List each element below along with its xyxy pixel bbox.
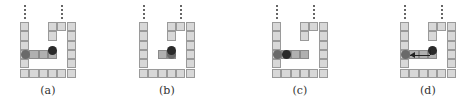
grid-cell (186, 50, 195, 59)
gray-token (401, 50, 410, 59)
grid-cell (300, 69, 309, 78)
grid-cell (48, 22, 57, 31)
continuation-dots (404, 5, 407, 21)
gray-token (21, 50, 30, 59)
grid-cell (300, 50, 309, 59)
grid-cell (158, 69, 167, 78)
grid-cell (186, 41, 195, 50)
grid-cell (167, 31, 176, 40)
grid-cell (158, 50, 167, 59)
panel-a: (a) (15, 0, 125, 106)
grid-cell (167, 22, 176, 31)
grid-cell (272, 59, 281, 68)
grid-cell (67, 22, 76, 31)
grid-cell (309, 22, 318, 31)
grid-cell (48, 69, 57, 78)
grid-cell (428, 69, 437, 78)
grid-cell (48, 31, 57, 40)
grid-cell (400, 31, 409, 40)
grid-cell (20, 31, 29, 40)
continuation-dots (313, 5, 316, 21)
grid-cell (39, 69, 48, 78)
grid-cell (20, 22, 29, 31)
move-arrow-segment (430, 50, 431, 55)
grid-cell (67, 31, 76, 40)
continuation-dots (276, 5, 279, 21)
grid-cell (186, 69, 195, 78)
grid-cell (409, 69, 418, 78)
panel-label: (c) (280, 84, 320, 97)
panel-label: (a) (28, 84, 68, 97)
grid-cell (319, 22, 328, 31)
grid-cell (428, 31, 437, 40)
grid-cell (67, 50, 76, 59)
grid-cell (139, 69, 148, 78)
grid-cell (139, 41, 148, 50)
grid-cell (139, 31, 148, 40)
grid-cell (176, 22, 185, 31)
grid-cell (186, 22, 195, 31)
grid-cell (20, 59, 29, 68)
continuation-dots (24, 5, 27, 21)
grid-cell (309, 69, 318, 78)
continuation-dots (143, 5, 146, 21)
grid-cell (139, 50, 148, 59)
panel-label: (b) (147, 84, 187, 97)
grid-cell (176, 69, 185, 78)
grid-cell (20, 41, 29, 50)
grid-cell (319, 59, 328, 68)
grid-cell (319, 41, 328, 50)
grid-cell (291, 69, 300, 78)
continuation-dots (61, 5, 64, 21)
grid-cell (447, 22, 456, 31)
grid-cell (167, 69, 176, 78)
gray-token (273, 50, 282, 59)
arrow-head-icon (410, 52, 415, 58)
grid-cell (400, 69, 409, 78)
panel-d: (d) (395, 0, 475, 106)
grid-cell (428, 22, 437, 31)
grid-cell (319, 69, 328, 78)
grid-cell (29, 50, 38, 59)
grid-cell (319, 31, 328, 40)
panel-label: (d) (408, 84, 448, 97)
grid-cell (186, 31, 195, 40)
grid-cell (186, 59, 195, 68)
grid-cell (139, 59, 148, 68)
grid-cell (447, 50, 456, 59)
continuation-dots (441, 5, 444, 21)
grid-cell (419, 69, 428, 78)
grid-cell (300, 22, 309, 31)
continuation-dots (180, 5, 183, 21)
grid-cell (437, 69, 446, 78)
grid-cell (447, 41, 456, 50)
grid-cell (139, 22, 148, 31)
grid-cell (400, 22, 409, 31)
grid-cell (20, 69, 29, 78)
grid-cell (300, 31, 309, 40)
grid-cell (400, 41, 409, 50)
panel-b: (b) (134, 0, 244, 106)
grid-cell (319, 50, 328, 59)
grid-cell (67, 59, 76, 68)
grid-cell (291, 50, 300, 59)
panel-c: (c) (267, 0, 377, 106)
grid-cell (281, 69, 290, 78)
grid-cell (272, 22, 281, 31)
grid-cell (272, 41, 281, 50)
grid-cell (67, 69, 76, 78)
grid-cell (148, 69, 157, 78)
grid-cell (57, 22, 66, 31)
grid-cell (437, 22, 446, 31)
grid-cell (39, 50, 48, 59)
grid-cell (400, 59, 409, 68)
grid-cell (67, 41, 76, 50)
grid-cell (57, 69, 66, 78)
grid-cell (447, 69, 456, 78)
grid-cell (447, 31, 456, 40)
grid-cell (272, 31, 281, 40)
grid-cell (447, 59, 456, 68)
grid-cell (272, 69, 281, 78)
grid-cell (29, 69, 38, 78)
